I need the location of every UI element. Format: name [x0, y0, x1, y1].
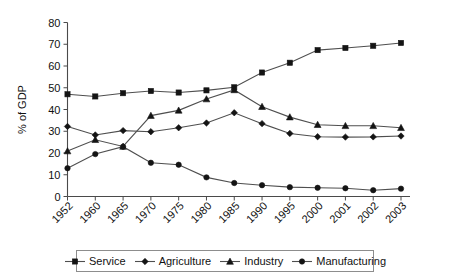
x-tick-labels: 1952196019651970197519801985199019952000… [49, 199, 408, 225]
series-manufacturing [65, 144, 404, 193]
data-point-marker [148, 88, 153, 93]
data-point-marker [259, 120, 265, 126]
data-point-marker [175, 107, 182, 113]
data-point-marker [148, 128, 154, 134]
data-point-marker [342, 134, 348, 140]
x-tick-label: 1990 [244, 199, 270, 225]
x-tick-label: 2000 [299, 199, 325, 225]
data-point-marker [64, 123, 70, 129]
data-point-marker [259, 103, 266, 109]
x-tick-label: 1970 [132, 199, 158, 225]
x-tick-label: 2003 [383, 199, 409, 225]
x-tick-label: 1952 [49, 199, 75, 225]
x-tick-label: 1985 [216, 199, 242, 225]
data-point-marker [343, 45, 348, 50]
data-point-marker [64, 148, 71, 154]
data-point-marker [93, 94, 98, 99]
y-tick-label: 50 [48, 82, 60, 94]
y-tick-label: 60 [48, 60, 60, 72]
data-point-marker [300, 258, 305, 263]
data-point-marker [65, 92, 70, 97]
y-axis-title: % of GDP [16, 85, 28, 134]
data-point-marker [176, 90, 181, 95]
legend-symbol-circle [291, 256, 313, 267]
y-tick-label: 40 [48, 104, 60, 116]
data-point-marker [176, 162, 181, 167]
legend-item-agriculture[interactable]: Agriculture [134, 255, 212, 267]
data-point-marker [92, 136, 99, 142]
data-point-marker [204, 175, 209, 180]
legend-item-manufacturing[interactable]: Manufacturing [291, 255, 386, 267]
x-tick-label: 1980 [188, 199, 214, 225]
series-line-agriculture [68, 113, 402, 137]
data-point-marker [232, 180, 237, 185]
data-point-marker [175, 125, 181, 131]
data-point-marker [371, 43, 376, 48]
y-axis: 01020304050607080 [48, 17, 67, 203]
y-axis-title-text: % of GDP [16, 85, 28, 134]
data-point-marker [370, 134, 376, 140]
legend-item-label: Manufacturing [316, 255, 386, 267]
x-tick-label: 1975 [160, 199, 186, 225]
data-point-marker [287, 60, 292, 65]
data-point-marker [398, 133, 404, 139]
data-point-marker [315, 185, 320, 190]
y-tick-label: 10 [48, 169, 60, 181]
legend-item-industry[interactable]: Industry [219, 255, 283, 267]
data-point-marker [141, 258, 147, 264]
data-point-marker [93, 151, 98, 156]
series-agriculture [64, 110, 404, 141]
data-point-marker [120, 127, 126, 133]
x-tick-label: 1995 [271, 199, 297, 225]
data-point-marker [314, 133, 320, 139]
y-tick-label: 80 [48, 17, 60, 29]
data-point-marker [343, 186, 348, 191]
data-point-marker [65, 166, 70, 171]
x-axis [68, 197, 411, 201]
data-point-marker [231, 110, 237, 116]
x-tick-label: 1965 [105, 199, 131, 225]
y-tick-label: 70 [48, 38, 60, 50]
chart-container: 01020304050607080 % of GDP 1952196019651… [0, 0, 450, 280]
x-tick-label: 2001 [327, 199, 353, 225]
series-industry [64, 87, 404, 154]
x-tick-label: 2002 [355, 199, 381, 225]
legend-item-label: Industry [244, 255, 283, 267]
series-line-industry [68, 90, 402, 151]
data-point-marker [120, 144, 125, 149]
chart-legend: ServiceAgricultureIndustryManufacturing [76, 250, 374, 272]
data-point-marker [203, 120, 209, 126]
data-point-marker [120, 91, 125, 96]
data-point-marker [259, 182, 264, 187]
y-tick-label: 20 [48, 147, 60, 159]
y-tick-label: 0 [54, 191, 60, 203]
data-point-marker [259, 70, 264, 75]
data-point-marker [287, 130, 293, 136]
line-chart-plot: 01020304050607080 % of GDP 1952196019651… [0, 0, 450, 280]
data-series-group [64, 40, 404, 193]
data-point-marker [287, 184, 292, 189]
legend-item-label: Service [89, 255, 126, 267]
data-point-marker [398, 186, 403, 191]
data-point-marker [371, 187, 376, 192]
legend-symbol-triangle [219, 256, 241, 267]
y-tick-label: 30 [48, 125, 60, 137]
data-point-marker [286, 114, 293, 120]
data-point-marker [148, 160, 153, 165]
data-point-marker [72, 258, 77, 263]
data-point-marker [204, 88, 209, 93]
x-tick-label: 1960 [77, 199, 103, 225]
legend-item-label: Agriculture [159, 255, 212, 267]
legend-symbol-diamond [134, 256, 156, 267]
data-point-marker [315, 48, 320, 53]
legend-symbol-square [64, 256, 86, 267]
data-point-marker [398, 40, 403, 45]
legend-item-service[interactable]: Service [64, 255, 126, 267]
